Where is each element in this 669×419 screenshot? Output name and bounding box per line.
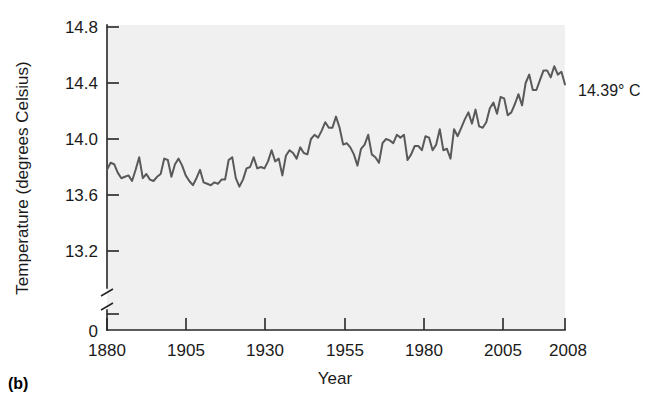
y-tick-label-14-4: 14.4: [65, 74, 98, 93]
x-axis-title: Year: [318, 369, 353, 388]
temperature-line-chart: 14.8 14.4 14.0 13.6 13.2 0 1880 1905 193…: [0, 0, 669, 419]
y-tick-label-13-2: 13.2: [65, 242, 98, 261]
x-tick-label-2008: 2008: [549, 341, 587, 360]
y-tick-label-0: 0: [89, 322, 98, 341]
endpoint-annotation: 14.39° C: [578, 82, 640, 99]
x-tick-label-2005: 2005: [484, 341, 522, 360]
x-tick-label-1980: 1980: [405, 341, 443, 360]
y-tick-label-14-8: 14.8: [65, 18, 98, 37]
y-tick-label-13-6: 13.6: [65, 186, 98, 205]
x-tick-label-1880: 1880: [88, 341, 126, 360]
figure-container: 14.8 14.4 14.0 13.6 13.2 0 1880 1905 193…: [0, 0, 669, 419]
x-tick-label-1955: 1955: [326, 341, 364, 360]
y-tick-label-14-0: 14.0: [65, 130, 98, 149]
x-tick-label-1930: 1930: [246, 341, 284, 360]
x-tick-label-1905: 1905: [167, 341, 205, 360]
plot-background: [107, 25, 565, 330]
panel-label: (b): [8, 375, 28, 392]
y-axis-title: Temperature (degrees Celsius): [13, 61, 32, 294]
